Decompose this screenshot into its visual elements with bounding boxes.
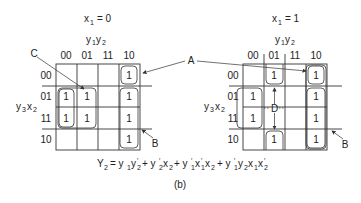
- boolean-equation: Y2 = y1 y2′ + y2′ x2 + y1′ x1′ x2 + y1′ …: [97, 157, 268, 171]
- svg-text:x: x: [27, 101, 32, 112]
- svg-text:′: ′: [264, 157, 266, 164]
- map-title-value: = 0: [97, 13, 112, 24]
- row-variables-label: y3 x2: [204, 101, 225, 113]
- cell-value: 1: [84, 91, 90, 102]
- svg-text:B: B: [152, 138, 159, 149]
- col-label: 00: [60, 50, 72, 61]
- svg-text:′: ′: [191, 157, 193, 164]
- column-variables-label: y1 y2: [275, 34, 295, 46]
- map-title-var: x: [272, 13, 277, 24]
- svg-text:y: y: [238, 158, 243, 169]
- svg-text:′: ′: [201, 157, 203, 164]
- map-title-var: x: [84, 13, 89, 24]
- svg-text:2: 2: [291, 39, 295, 46]
- row-label: 10: [227, 134, 239, 145]
- col-label: 10: [123, 50, 135, 61]
- svg-text:y: y: [96, 34, 101, 45]
- svg-text:= y: = y: [110, 158, 124, 169]
- cell-value: 1: [84, 113, 90, 124]
- svg-text:x: x: [215, 101, 220, 112]
- svg-text:y: y: [86, 34, 91, 45]
- cell-value: 1: [63, 113, 69, 124]
- row-label: 01: [40, 91, 52, 102]
- svg-text:2: 2: [211, 164, 215, 171]
- svg-text:3: 3: [210, 106, 214, 113]
- cell-value: 1: [126, 113, 132, 124]
- kmap-x1-1: x 1 = 1 y1 y2 00 01 11 10 00 01 11 10 y3…: [204, 13, 342, 150]
- column-variables-label: y1 y2: [86, 34, 106, 46]
- svg-text:2: 2: [104, 164, 108, 171]
- svg-text:x: x: [258, 158, 263, 169]
- kmap-x1-0: x 1 = 0 y1 y2 00 01 11 10 00 01 11 10 y3…: [16, 13, 152, 150]
- cell-value: 1: [313, 134, 319, 145]
- callout-d: D: [271, 103, 278, 114]
- svg-text:x: x: [248, 158, 253, 169]
- svg-text:2: 2: [264, 164, 268, 171]
- svg-text:y: y: [131, 158, 136, 169]
- row-variables-label: y3 x2: [16, 101, 37, 113]
- svg-text:y: y: [285, 34, 290, 45]
- svg-text:3: 3: [22, 106, 26, 113]
- svg-text:C: C: [30, 48, 37, 59]
- map-title-value: = 1: [285, 13, 300, 24]
- callout-b-left: B: [142, 130, 159, 149]
- callout-b-right: B: [332, 131, 349, 150]
- cell-value: 1: [126, 134, 132, 145]
- svg-text:+ y: + y: [142, 158, 156, 169]
- svg-text:2: 2: [169, 164, 173, 171]
- svg-text:+ y: + y: [217, 158, 231, 169]
- row-label: 10: [40, 134, 52, 145]
- figure-caption: (b): [174, 179, 186, 190]
- svg-text:′: ′: [234, 157, 236, 164]
- svg-text:B: B: [342, 139, 349, 150]
- svg-text:Y: Y: [97, 158, 104, 169]
- cell-value: 1: [313, 70, 319, 81]
- svg-text:x: x: [163, 158, 168, 169]
- col-label: 01: [81, 50, 93, 61]
- svg-text:′: ′: [137, 157, 139, 164]
- cell-value: 1: [313, 113, 319, 124]
- svg-text:x: x: [205, 158, 210, 169]
- col-label: 01: [268, 50, 280, 61]
- svg-text:+ y: + y: [174, 158, 188, 169]
- row-label: 00: [227, 70, 239, 81]
- svg-text:A: A: [188, 55, 195, 66]
- cell-value: 1: [250, 113, 256, 124]
- col-label: 11: [290, 50, 301, 61]
- cell-value: 1: [126, 70, 132, 81]
- cell-value: 1: [313, 91, 319, 102]
- cell-value: 1: [271, 134, 277, 145]
- col-label: 00: [247, 50, 259, 61]
- svg-text:2: 2: [33, 106, 37, 113]
- svg-text:2: 2: [137, 164, 141, 171]
- svg-text:′: ′: [159, 157, 161, 164]
- row-label: 11: [41, 113, 52, 124]
- col-label: 10: [310, 50, 322, 61]
- karnaugh-map-figure: x 1 = 0 y1 y2 00 01 11 10 00 01 11 10 y3…: [0, 0, 361, 203]
- cell-value: 1: [63, 91, 69, 102]
- svg-text:y: y: [16, 101, 21, 112]
- svg-text:y: y: [204, 101, 209, 112]
- svg-text:2: 2: [221, 106, 225, 113]
- cell-value: 1: [126, 91, 132, 102]
- map-title-sub: 1: [90, 19, 94, 26]
- cell-value: 1: [271, 70, 277, 81]
- callout-c: C: [30, 48, 84, 89]
- svg-text:2: 2: [102, 39, 106, 46]
- row-label: 00: [40, 70, 52, 81]
- map-title-sub: 1: [278, 19, 282, 26]
- svg-text:y: y: [275, 34, 280, 45]
- cell-value: 1: [250, 91, 256, 102]
- svg-text:x: x: [195, 158, 200, 169]
- col-label: 11: [103, 50, 114, 61]
